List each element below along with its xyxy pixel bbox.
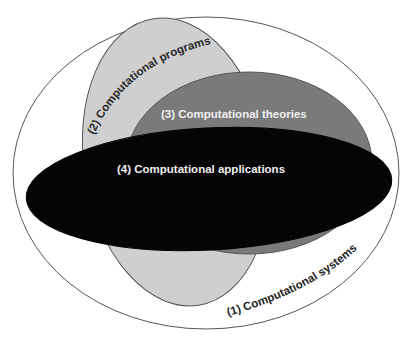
label-computational-theories: (3) Computational theories — [161, 108, 307, 120]
venn-diagram: (2) Computational programs (3) Computati… — [0, 0, 411, 344]
label-computational-applications: (4) Computational applications — [117, 163, 285, 175]
